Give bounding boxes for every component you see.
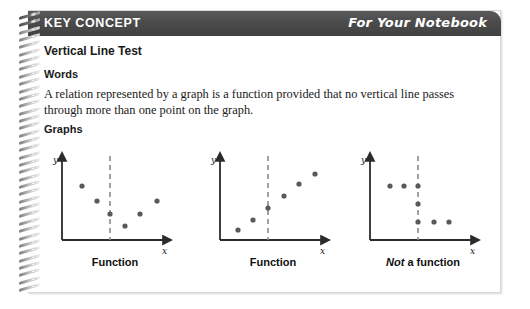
key-concept-header: KEY CONCEPT For Your Notebook (28, 11, 501, 36)
data-point (250, 217, 255, 222)
spiral-binding (19, 14, 41, 295)
data-point (235, 227, 240, 232)
y-axis-label: y (360, 155, 367, 165)
x-axis-label: x (320, 246, 325, 256)
data-point (94, 198, 99, 203)
graph-caption-3-text: a function (404, 256, 460, 268)
words-heading: Words (44, 68, 78, 80)
data-point (122, 223, 127, 228)
page-sheet: KEY CONCEPT For Your Notebook Vertical L… (28, 10, 501, 293)
graphs-heading: Graphs (44, 123, 83, 135)
graph-caption-2: Function (198, 256, 348, 268)
data-point (281, 193, 286, 198)
graph-caption-1-text: Function (92, 256, 138, 268)
concept-title: Vertical Line Test (44, 44, 142, 58)
for-your-notebook-label: For Your Notebook (348, 15, 487, 30)
graph-caption-2-text: Function (250, 256, 296, 268)
data-point (312, 171, 317, 176)
graph-panel-2: y x Function (198, 144, 348, 294)
graph-caption-1: Function (40, 256, 190, 268)
notebook-page: KEY CONCEPT For Your Notebook Vertical L… (0, 0, 530, 309)
data-point (265, 205, 270, 210)
scatter-plot-3: y x (348, 144, 498, 256)
y-axis-label: y (210, 155, 217, 165)
data-point (446, 219, 451, 224)
x-axis-label: x (470, 246, 475, 256)
spiral-coil (19, 283, 40, 292)
data-point (401, 183, 406, 188)
scatter-plot-1: y x (40, 144, 190, 256)
data-point (415, 201, 420, 206)
y-axis-label: y (52, 155, 59, 165)
data-point (107, 211, 112, 216)
scatter-plot-2: y x (198, 144, 348, 256)
words-definition-text: A relation represented by a graph is a f… (44, 87, 488, 118)
graph-caption-3: Not a function (348, 256, 498, 268)
data-point (79, 183, 84, 188)
data-point (387, 183, 392, 188)
data-point (415, 219, 420, 224)
data-point (415, 183, 420, 188)
data-point (431, 219, 436, 224)
x-axis-label: x (162, 246, 167, 256)
page-title: KEY CONCEPT (44, 16, 141, 30)
graph-panel-1: y x Function (40, 144, 190, 294)
data-point (296, 181, 301, 186)
graphs-row: y x Function (28, 144, 501, 294)
data-point (137, 211, 142, 216)
graph-panel-3: y x Not a function (348, 144, 498, 294)
data-point (154, 198, 159, 203)
graph-caption-3-prefix: Not (386, 256, 404, 268)
